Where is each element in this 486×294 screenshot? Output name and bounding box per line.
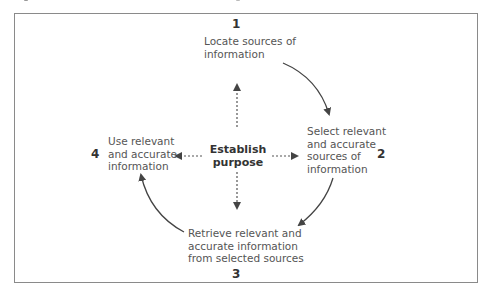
curve-arrow-2-to-3 [299,178,333,225]
step-3-label: Retrieve relevant and accurate informati… [188,227,304,265]
curve-arrow-1-to-2 [283,63,329,114]
step-4-line: Use relevant [108,135,177,148]
step-2-line: and accurate [307,138,386,151]
step-1-line: information [204,48,296,61]
step-2-number: 2 [377,147,385,161]
step-4-number: 4 [91,147,99,161]
step-3-line: accurate information [188,240,304,253]
step-2-line: Select relevant [307,125,386,138]
step-4-label: Use relevant and accurate information [108,135,177,173]
step-2-line: information [307,163,386,176]
curve-arrow-3-to-4 [141,175,184,232]
center-label: Establish purpose [204,143,272,169]
step-3-line: from selected sources [188,252,304,265]
step-2-line: sources of [307,150,386,163]
step-4-line: and accurate [108,148,177,161]
center-label-line1: Establish [204,143,272,156]
step-1-line: Locate sources of [204,35,296,48]
step-3-line: Retrieve relevant and [188,227,304,240]
step-1-label: Locate sources of information [204,35,296,60]
step-1-number: 1 [232,17,240,31]
step-3-number: 3 [232,267,240,281]
step-2-label: Select relevant and accurate sources of … [307,125,386,175]
step-4-line: information [108,160,177,173]
center-label-line2: purpose [204,156,272,169]
